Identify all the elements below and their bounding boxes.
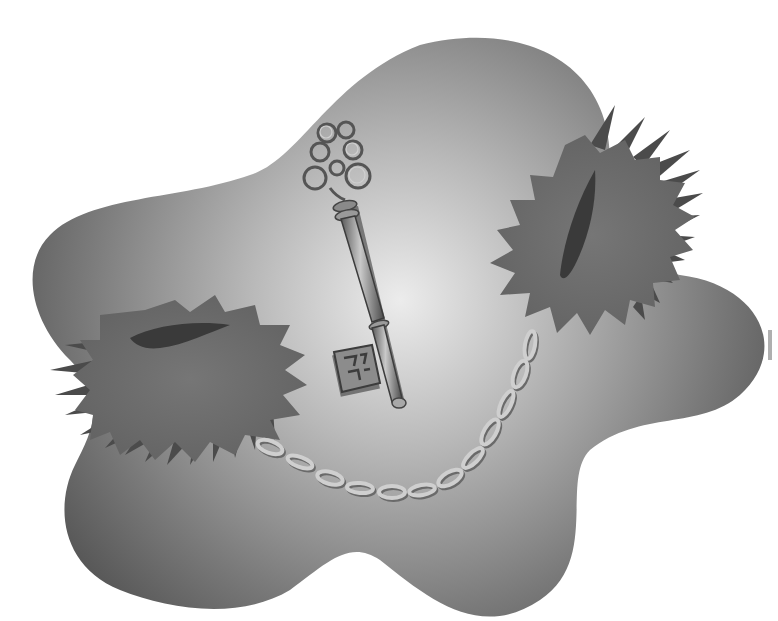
key-bit	[334, 345, 380, 392]
edge-mark	[768, 330, 772, 360]
illustration	[0, 0, 778, 621]
